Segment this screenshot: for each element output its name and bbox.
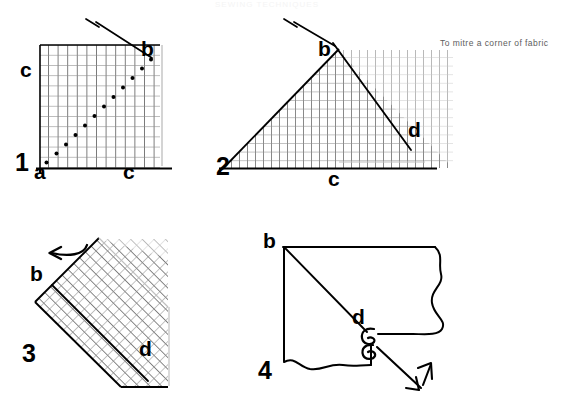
figure-4 (255, 228, 475, 403)
figure-4-label-d: d (352, 306, 365, 327)
figure-caption: To mitre a corner of fabric (440, 38, 549, 48)
figure-2-label-d: d (408, 119, 421, 140)
figure-1-drawing (0, 14, 200, 194)
figure-sheet: SEWING TECHNIQUES (0, 0, 565, 409)
figure-3 (20, 222, 210, 397)
figure-1-label-c-left: c (20, 59, 32, 80)
fabric-outer-edges-1 (36, 169, 172, 175)
figure-1 (0, 14, 200, 194)
figure-4-step-number: 4 (258, 358, 272, 383)
figure-2-step-number: 2 (216, 154, 230, 179)
figure-1-label-a: a (34, 161, 46, 182)
fabric-grid-1 (40, 45, 162, 169)
figure-3-label-d: d (139, 338, 152, 359)
figure-3-drawing (20, 222, 210, 397)
figure-1-step-number: 1 (15, 150, 29, 175)
fabric-grid-3 (20, 222, 210, 397)
figure-3-step-number: 3 (22, 341, 36, 366)
figure-1-label-b: b (141, 38, 154, 59)
figure-4-drawing (255, 228, 475, 403)
ghost-running-head: SEWING TECHNIQUES (215, 0, 319, 9)
figure-3-label-b: b (30, 263, 43, 284)
figure-4-label-b: b (263, 230, 276, 251)
figure-2-label-c-bottom: c (328, 168, 340, 189)
thread-knot-4 (362, 329, 375, 359)
figure-1-label-c-bottom: c (123, 161, 135, 182)
figure-2-label-b: b (318, 38, 331, 59)
double-headed-arrow-4 (377, 347, 432, 390)
